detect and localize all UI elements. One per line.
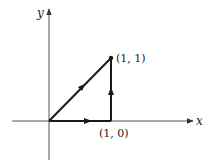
vertical-arrowhead-icon (108, 87, 114, 95)
diagram-canvas: x y (1, 1) (1, 0) (0, 0, 213, 165)
point-1-0-label: (1, 0) (99, 127, 129, 140)
point-1-1-label: (1, 1) (116, 52, 146, 65)
x-axis-label: x (196, 114, 203, 128)
diagonal-path (49, 58, 111, 121)
point-1-1-dot (109, 56, 113, 60)
y-axis-label: y (36, 6, 44, 20)
horizontal-arrowhead-icon (84, 118, 92, 124)
